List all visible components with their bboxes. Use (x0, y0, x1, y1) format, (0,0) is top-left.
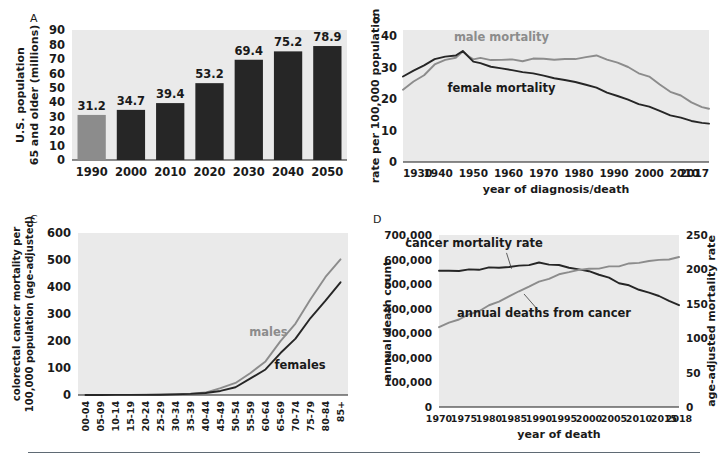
panel-c-ytick: 400 (47, 280, 71, 294)
panel-a-chart: 010203040506070809031.2199034.7200039.42… (0, 0, 361, 205)
panel-d-label: D (373, 213, 382, 226)
panel-c-ytick: 300 (47, 307, 71, 321)
panel-b-label: B (373, 12, 381, 25)
panel-d-ylabel-right: age-adjusted mortality rate (705, 235, 718, 407)
panel-d-xtick: 1985 (501, 413, 527, 424)
svg-text:45-49: 45-49 (215, 401, 226, 431)
panel-a-ytick: 80 (49, 38, 65, 52)
panel-d-xtick: 1995 (551, 413, 577, 424)
svg-text:20-24: 20-24 (140, 401, 151, 432)
svg-text:U.S. population: U.S. population (14, 47, 27, 143)
panel-d-xtick: 2018 (666, 413, 693, 424)
panel-c-xtick: 55-59 (245, 401, 256, 431)
svg-text:55-59: 55-59 (245, 401, 256, 431)
panel-a-xtick: 2050 (311, 165, 343, 179)
svg-text:colorectal cancer mortality pe: colorectal cancer mortality per (11, 227, 22, 401)
svg-text:35-39: 35-39 (185, 401, 196, 431)
panel-c-xtick: 10-14 (110, 401, 121, 432)
panel-a: A 010203040506070809031.2199034.7200039.… (0, 0, 361, 205)
panel-a-xtick: 1990 (76, 165, 108, 179)
svg-text:85+: 85+ (335, 401, 346, 422)
panel-a-xtick: 2000 (115, 165, 147, 179)
panel-a-ytick: 10 (49, 139, 65, 153)
figure-container: A 010203040506070809031.2199034.7200039.… (0, 0, 722, 465)
panel-a-bar-value: 69.4 (235, 44, 263, 58)
svg-text:15-19: 15-19 (125, 401, 136, 431)
panel-c-xtick: 25-29 (155, 401, 166, 431)
panel-c-xtick: 70-74 (290, 401, 301, 432)
svg-text:65 and older (millions): 65 and older (millions) (28, 25, 41, 166)
panel-a-bar-value: 31.2 (77, 99, 105, 113)
panel-b: B 01020304019301940195019601970198019902… (361, 0, 722, 205)
panel-c-series-label: females (274, 358, 325, 372)
panel-d-ytick-right: 0 (686, 401, 693, 413)
panel-c-series-label: males (249, 325, 287, 339)
panel-d-xtick: 2010 (626, 413, 653, 424)
panel-a-bar (78, 115, 106, 160)
panel-c-xtick: 80-84 (320, 401, 331, 432)
svg-text:65-69: 65-69 (275, 401, 286, 431)
panel-a-label: A (30, 12, 38, 25)
panel-c-ytick: 0 (63, 388, 71, 402)
panel-d-ytick-right: 50 (686, 367, 701, 379)
panel-a-bar (117, 110, 145, 160)
panel-a-xtick: 2020 (193, 165, 225, 179)
svg-text:80-84: 80-84 (320, 401, 331, 432)
figure-bottom-rule (28, 452, 700, 453)
panel-a-bar-value: 53.2 (195, 67, 223, 81)
panel-a-bar-value: 34.7 (117, 94, 145, 108)
panel-b-chart: 0102030401930194019501960197019801990200… (361, 0, 722, 205)
svg-text:00-04: 00-04 (80, 401, 91, 432)
panel-d-xtick: 2005 (601, 413, 627, 424)
panel-b-xtick: 1960 (494, 167, 523, 179)
panel-b-ytick: 20 (381, 92, 397, 106)
panel-b-xtick: 1970 (529, 167, 558, 179)
panel-d-ytick-left: 0 (425, 401, 432, 413)
panel-c-xtick: 75-79 (305, 401, 316, 431)
panel-c-xtick: 65-69 (275, 401, 286, 431)
panel-c-xtick: 85+ (335, 401, 346, 422)
panel-b-xtick: 2000 (635, 167, 664, 179)
panel-b-xtick: 1990 (599, 167, 628, 179)
panel-a-bar (274, 51, 302, 160)
panel-d-xtick: 1980 (476, 413, 503, 424)
panel-a-ytick: 40 (49, 95, 65, 109)
panel-a-bar (235, 60, 263, 160)
svg-text:40-44: 40-44 (200, 401, 211, 432)
panel-b-xtick: 1980 (564, 167, 593, 179)
panel-c-ytick: 100 (47, 361, 71, 375)
panel-b-series-label: female mortality (447, 81, 555, 95)
svg-text:05-09: 05-09 (95, 401, 106, 431)
svg-text:age-adjusted mortality rate: age-adjusted mortality rate (705, 235, 718, 407)
panel-a-xtick: 2010 (154, 165, 186, 179)
panel-a-ytick: 60 (49, 67, 65, 81)
panel-d-xtick: 2000 (576, 413, 603, 424)
panel-c-xtick: 20-24 (140, 401, 151, 432)
panel-c-xtick: 05-09 (95, 401, 106, 431)
panel-c-ylabel: colorectal cancer mortality per100,000 p… (11, 216, 35, 412)
panel-b-xtick: 1950 (459, 167, 488, 179)
panel-b-xtick: 2017 (680, 167, 709, 179)
panel-a-bar-value: 39.4 (156, 87, 184, 101)
panel-a-bar (313, 46, 341, 160)
panel-c-ytick: 200 (47, 334, 71, 348)
panel-c-xtick: 30-34 (170, 401, 181, 432)
panel-a-bar (156, 103, 184, 160)
panel-b-ytick: 10 (381, 124, 397, 138)
svg-text:10-14: 10-14 (110, 401, 121, 432)
panel-c-xtick: 35-39 (185, 401, 196, 431)
panel-b-ytick: 0 (389, 155, 397, 169)
svg-text:75-79: 75-79 (305, 401, 316, 431)
svg-text:25-29: 25-29 (155, 401, 166, 431)
panel-a-bar-value: 75.2 (274, 35, 302, 49)
panel-d-xtick: 1990 (526, 413, 553, 424)
panel-a-ytick: 50 (49, 81, 65, 95)
panel-d-ylabel-left: annual death count (381, 261, 394, 382)
svg-text:70-74: 70-74 (290, 401, 301, 432)
panel-b-ytick: 40 (381, 29, 397, 43)
panel-d-xtick: 1970 (426, 413, 453, 424)
panel-d-xlabel: year of death (517, 428, 600, 441)
panel-b-ylabel: rate per 100,000 population (369, 9, 382, 184)
panel-c-xtick: 15-19 (125, 401, 136, 431)
panel-a-ytick: 30 (49, 110, 65, 124)
